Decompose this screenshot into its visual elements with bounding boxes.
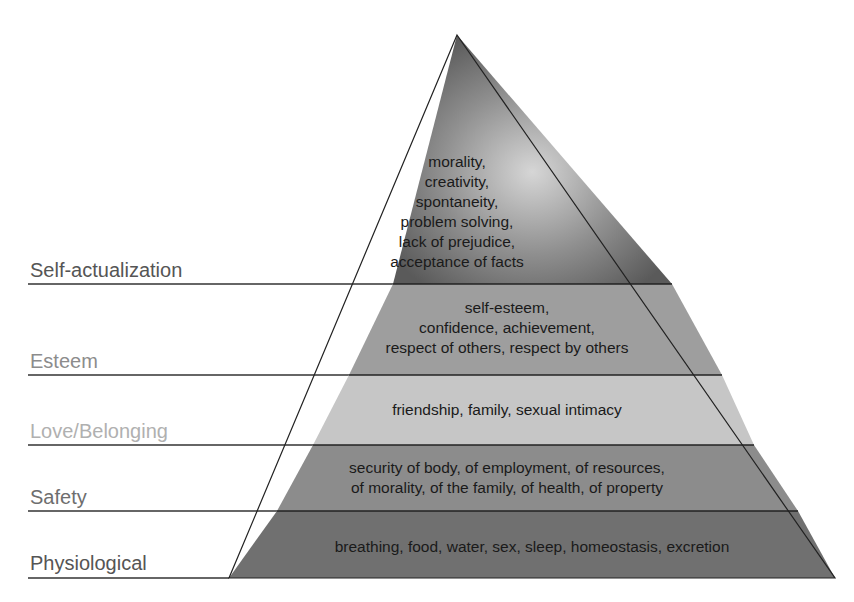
label-safety: Safety bbox=[30, 486, 87, 508]
text-esteem: self-esteem, confidence, achievement, re… bbox=[357, 298, 657, 358]
label-love-belonging: Love/Belonging bbox=[30, 420, 168, 442]
text-self-actualization: morality, creativity, spontaneity, probl… bbox=[382, 152, 532, 272]
label-esteem: Esteem bbox=[30, 350, 98, 372]
text-love-belonging: friendship, family, sexual intimacy bbox=[357, 400, 657, 420]
label-physiological: Physiological bbox=[30, 552, 147, 574]
text-physiological: breathing, food, water, sex, sleep, home… bbox=[257, 537, 807, 557]
text-safety: security of body, of employment, of reso… bbox=[307, 458, 707, 498]
label-self-actualization: Self-actualization bbox=[30, 259, 182, 281]
